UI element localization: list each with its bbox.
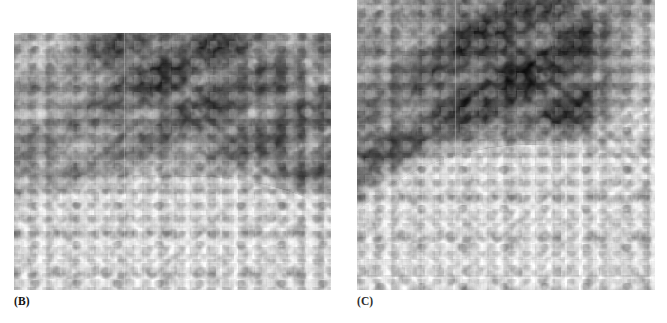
radiograph-panel-b [14,33,331,290]
panel-label-c: (C) [357,296,373,308]
figure-page: (B) (C) [0,0,667,323]
clipped-caption-text [386,314,667,323]
panel-label-b: (B) [14,296,30,308]
radiograph-panel-c [357,0,655,290]
